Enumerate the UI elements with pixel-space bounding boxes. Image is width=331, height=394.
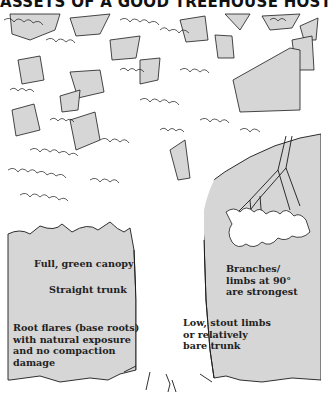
label-full-green-canopy: Full, green canopy xyxy=(34,258,134,270)
label-low-stout-limbs: Low, stout limbs or relatively bare trun… xyxy=(183,317,271,352)
label-root-flares: Root flares (base roots) with natural ex… xyxy=(13,322,139,368)
label-branches-90-degrees: Branches/ limbs at 90° are strongest xyxy=(226,263,298,298)
label-straight-trunk: Straight trunk xyxy=(49,284,127,296)
